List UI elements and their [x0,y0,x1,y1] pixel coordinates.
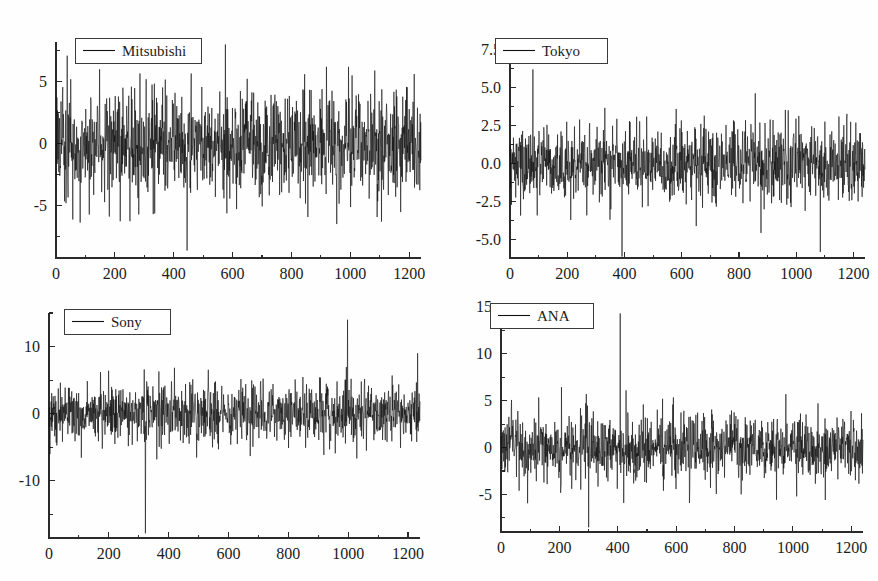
x-tick-label: 600 [670,265,694,282]
legend-label: Sony [111,314,142,330]
chart-panel-ana: -5051015020040060080010001200ANA [439,291,878,581]
axis-spine [501,305,863,532]
y-tick-label: 0 [39,135,47,152]
x-tick-label: 800 [723,539,747,556]
series-line-ana [501,313,863,527]
y-tick-label: -10 [19,472,40,489]
y-tick-label: 5 [39,73,47,90]
x-tick-label: 600 [664,539,688,556]
x-tick-label: 1200 [838,265,870,282]
y-tick-label: -2.5 [476,193,501,210]
x-tick-label: 1000 [780,265,812,282]
x-tick-label: 0 [45,545,53,562]
x-tick-label: 200 [547,539,571,556]
x-tick-label: 1200 [835,539,867,556]
figure-canvas: -505020040060080010001200Mitsubishi-5.0-… [0,0,878,581]
y-axis: -5051015 [476,298,507,518]
legend-label: Mitsubishi [122,43,186,59]
series-line-sony [49,320,420,534]
legend-label: Tokyo [542,43,580,59]
y-tick-label: 5.0 [481,79,501,96]
x-tick-label: 1200 [392,545,424,562]
chart-panel-mitsubishi: -505020040060080010001200Mitsubishi [0,0,439,291]
x-tick-label: 1000 [777,539,809,556]
x-tick-label: 0 [52,265,60,282]
x-axis: 020040060080010001200 [497,526,867,556]
y-tick-label: -5 [34,197,47,214]
x-tick-label: 400 [162,265,186,282]
y-tick-label: 0 [484,439,492,456]
x-tick-label: 200 [103,265,127,282]
legend-label: ANA [537,308,570,324]
x-tick-label: 800 [276,545,300,562]
x-axis: 020040060080010001200 [45,532,424,562]
chart-panel-sony: -10010020040060080010001200Sony [0,291,439,581]
x-tick-label: 1200 [393,265,425,282]
series-line-tokyo [510,69,865,256]
x-tick-label: 200 [555,265,579,282]
legend-tokyo[interactable]: Tokyo [495,38,607,63]
x-tick-label: 400 [157,545,181,562]
x-axis: 020040060080010001200 [52,252,425,282]
chart-panel-tokyo: -5.0-2.50.02.55.07.502004006008001000120… [439,0,878,291]
x-tick-label: 800 [279,265,303,282]
y-tick-label: 10 [24,338,40,355]
x-tick-label: 0 [497,539,505,556]
y-tick-label: -5.0 [476,231,501,248]
series-line-mitsubishi [56,44,421,250]
x-tick-label: 1000 [334,265,366,282]
x-tick-label: 200 [97,545,121,562]
y-tick-label: -5 [479,486,492,503]
x-tick-label: 1000 [332,545,364,562]
x-tick-label: 600 [221,265,245,282]
x-tick-label: 400 [613,265,637,282]
x-tick-label: 600 [217,545,241,562]
y-tick-label: 2.5 [481,117,501,134]
y-tick-label: 0.0 [481,155,501,172]
legend-ana[interactable]: ANA [490,303,593,328]
legend-sony[interactable]: Sony [64,309,170,334]
x-axis: 020040060080010001200 [506,252,870,282]
y-tick-label: 0 [32,405,40,422]
y-tick-label: 5 [484,392,492,409]
x-tick-label: 400 [606,539,630,556]
legend-mitsubishi[interactable]: Mitsubishi [75,38,201,63]
y-tick-label: 10 [476,345,492,362]
x-tick-label: 0 [506,265,514,282]
x-tick-label: 800 [727,265,751,282]
